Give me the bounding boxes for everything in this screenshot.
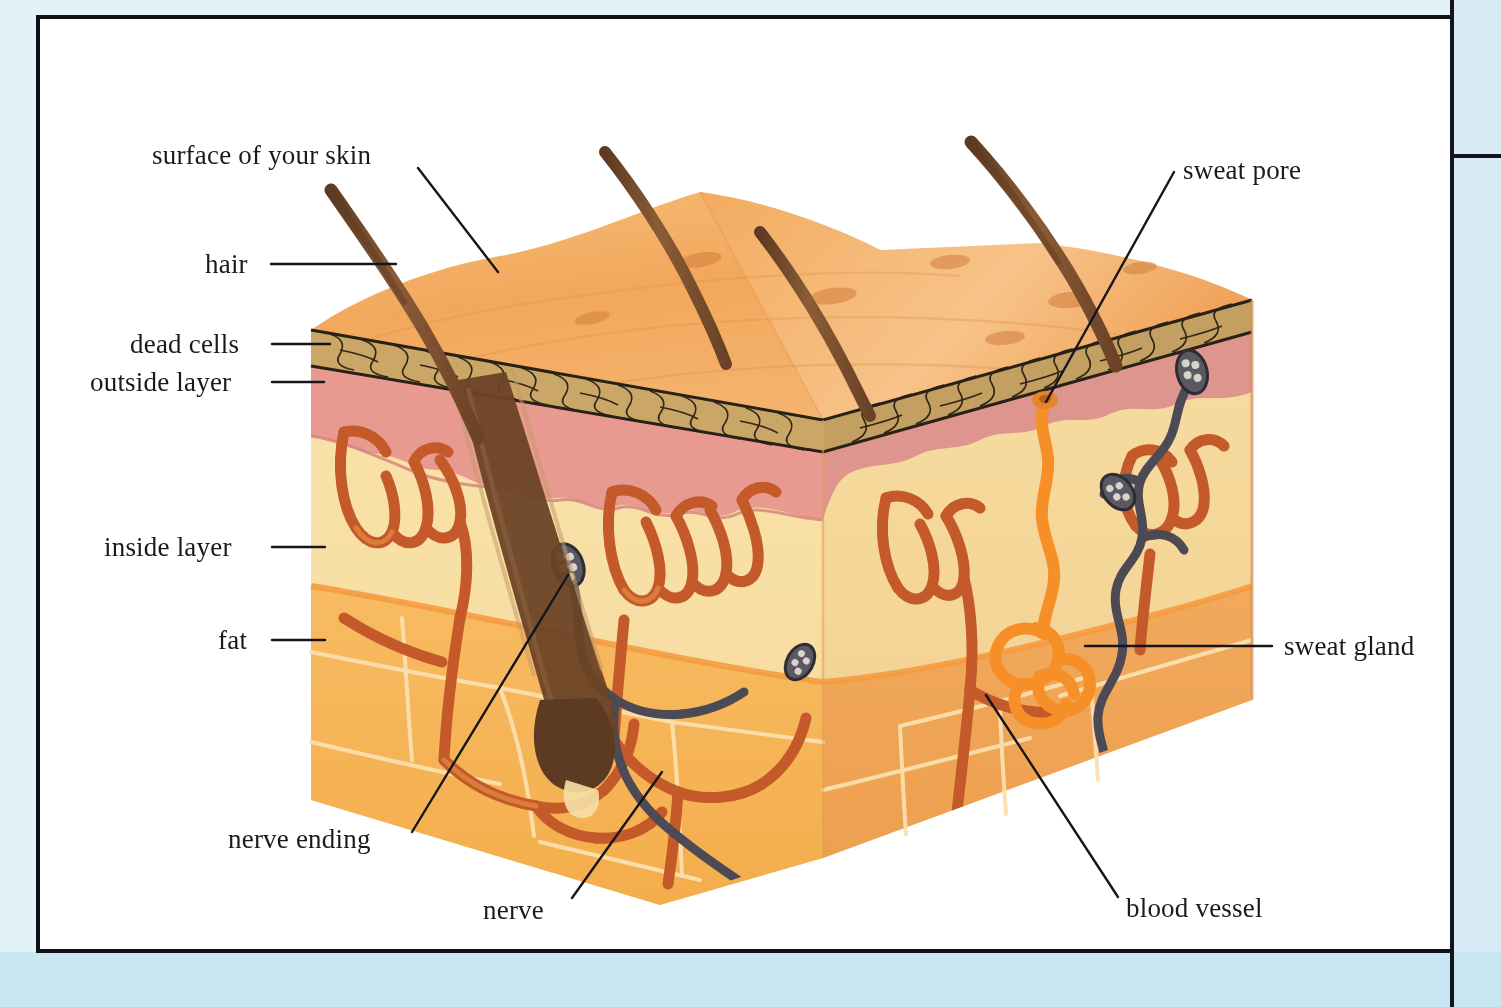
label-dead-cells: dead cells [130, 331, 239, 358]
label-outside-layer: outside layer [90, 369, 231, 396]
label-inside-layer: inside layer [104, 534, 232, 561]
label-fat: fat [218, 627, 247, 654]
label-nerve-ending: nerve ending [228, 826, 371, 853]
sweat-pore [1032, 391, 1058, 409]
label-surface-of-your-skin: surface of your skin [152, 142, 371, 169]
label-hair: hair [205, 251, 248, 278]
label-blood-vessel: blood vessel [1126, 895, 1263, 922]
illustration-page: surface of your skinhairdead cellsoutsid… [0, 0, 1501, 1007]
label-sweat-gland: sweat gland [1284, 633, 1414, 660]
label-sweat-pore: sweat pore [1183, 157, 1301, 184]
label-nerve: nerve [483, 897, 544, 924]
